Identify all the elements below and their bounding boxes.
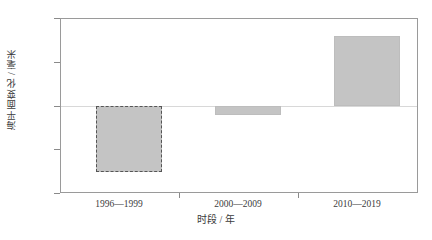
x-tick-label-2010-2019: 2010—2019 bbox=[287, 200, 427, 210]
y-axis-title: 海平面变化 / 毫米 bbox=[8, 48, 24, 130]
bar-2010-2019 bbox=[334, 36, 400, 106]
sea-level-change-bar-chart: 海平面变化 / 毫米 40 20 0 −20 −40 1996—1999 200… bbox=[0, 0, 432, 240]
x-tick-mark-1 bbox=[179, 193, 180, 198]
x-axis-title: 时段 / 年 bbox=[0, 215, 432, 225]
y-tick-mark-minus-40 bbox=[54, 193, 60, 194]
bar-1996-1999 bbox=[96, 106, 162, 172]
plot-area bbox=[60, 18, 418, 193]
bar-2000-2009 bbox=[215, 106, 281, 115]
x-tick-mark-2 bbox=[298, 193, 299, 198]
